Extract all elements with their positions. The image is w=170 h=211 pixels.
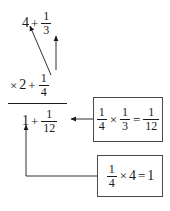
callout2-left-numerator: 1: [107, 163, 117, 176]
callout1-right-denominator: 3: [120, 119, 130, 133]
callout2-equals-sign: =: [138, 168, 145, 184]
second-plus-sign: +: [28, 79, 35, 92]
callout-box-one: 1 4 × 4 = 1: [97, 155, 163, 197]
callout1-right-fraction: 1 3: [120, 106, 130, 132]
top-plus-sign: +: [31, 17, 38, 30]
callout-box-one-twelfth: 1 4 × 1 3 = 1 12: [93, 97, 163, 142]
callout1-result-fraction: 1 12: [143, 106, 159, 132]
result-whole-number: 1: [22, 114, 29, 128]
second-whole-number: 2: [19, 78, 26, 92]
second-fraction-denominator: 4: [39, 85, 49, 99]
second-fraction-numerator: 1: [39, 72, 49, 85]
callout2-times-sign: ×: [120, 168, 127, 184]
result-fraction-denominator: 12: [41, 121, 57, 135]
result-fraction-numerator: 1: [44, 108, 54, 121]
callout1-left-denominator: 4: [97, 119, 107, 133]
callout1-result-denominator: 12: [143, 119, 159, 133]
callout1-equals-sign: =: [133, 112, 140, 128]
callout1-right-numerator: 1: [120, 106, 130, 119]
top-whole-number: 4: [22, 16, 29, 30]
second-fraction: 1 4: [39, 72, 49, 98]
horizontal-rule: [8, 103, 67, 104]
expression-second-row: × 2 + 1 4: [8, 72, 50, 98]
figure-canvas: 4 + 1 3 × 2 + 1 4 1 + 1 12 1 4 ×: [0, 0, 170, 211]
result-plus-sign: +: [31, 115, 38, 128]
callout2-left-denominator: 4: [107, 176, 117, 190]
callout1-left-fraction: 1 4: [97, 106, 107, 132]
top-fraction-denominator: 3: [41, 23, 51, 37]
top-fraction: 1 3: [41, 10, 51, 36]
result-fraction: 1 12: [41, 108, 57, 134]
multiplication-sign: ×: [10, 79, 17, 92]
callout1-left-numerator: 1: [97, 106, 107, 119]
expression-result-row: 1 + 1 12: [22, 108, 58, 134]
callout1-result-numerator: 1: [146, 106, 156, 119]
callout2-right-whole: 4: [129, 168, 136, 184]
callout1-times-sign: ×: [110, 112, 117, 128]
expression-top-row: 4 + 1 3: [22, 10, 52, 36]
top-fraction-numerator: 1: [41, 10, 51, 23]
callout2-result-whole: 1: [147, 168, 154, 184]
callout2-left-fraction: 1 4: [107, 163, 117, 189]
